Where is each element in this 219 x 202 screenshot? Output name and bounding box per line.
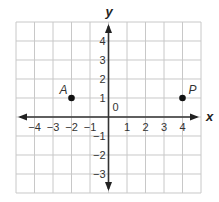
y-tick-label: 3: [99, 54, 105, 66]
x-tick-label: −4: [28, 121, 41, 133]
x-tick-label: −2: [65, 121, 78, 133]
y-tick-label: 2: [99, 73, 105, 85]
coordinate-grid: xy−4−3−2−112344321−1−2−30AP: [0, 0, 219, 202]
point-label-p: P: [189, 83, 197, 97]
x-tick-label: 3: [161, 121, 167, 133]
y-tick-label: −1: [93, 130, 106, 142]
x-axis-label: x: [205, 109, 214, 124]
point-p: [179, 95, 186, 102]
x-tick-label: 1: [124, 121, 130, 133]
y-tick-label: −2: [93, 149, 106, 161]
x-tick-label: 2: [142, 121, 148, 133]
point-a: [68, 95, 75, 102]
y-axis-arrow-down-icon: [105, 182, 112, 191]
x-tick-label: 4: [179, 121, 185, 133]
x-axis-arrow-right-icon: [190, 113, 199, 120]
y-tick-label: −3: [93, 168, 106, 180]
origin-label: 0: [113, 101, 119, 113]
y-tick-label: 1: [99, 92, 105, 104]
y-axis-arrow-up-icon: [105, 24, 112, 33]
x-axis-arrow-left-icon: [18, 113, 27, 120]
y-tick-label: 4: [99, 35, 105, 47]
x-tick-label: −3: [47, 121, 60, 133]
y-axis-label: y: [105, 4, 114, 19]
point-label-a: A: [59, 83, 68, 97]
